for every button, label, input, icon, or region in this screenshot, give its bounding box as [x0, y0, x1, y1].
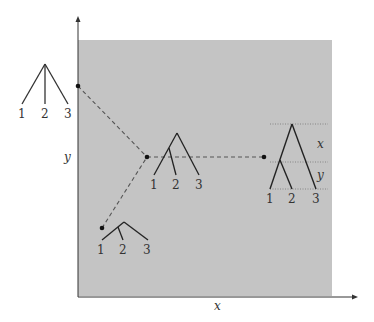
right-tree-branch-x-label: x — [317, 137, 324, 151]
y-axis-label: y — [63, 150, 71, 164]
y-axis-arrow-icon — [76, 16, 81, 22]
bottom-tree-leaf-3: 3 — [143, 243, 151, 257]
star-tree-leaf-2: 2 — [41, 107, 49, 121]
star-tree-leaf-3: 3 — [64, 107, 72, 121]
point-top — [76, 84, 81, 89]
right-tree-leaf-1: 1 — [266, 192, 274, 206]
center-tree-leaf-1: 1 — [150, 178, 158, 192]
star-tree-leaf-1: 1 — [18, 107, 26, 121]
right-tree-leaf-3: 3 — [312, 192, 320, 206]
shaded-region — [78, 40, 332, 296]
point-right — [262, 155, 267, 160]
point-center — [145, 155, 150, 160]
bottom-tree-leaf-1: 1 — [97, 243, 105, 257]
center-tree-leaf-2: 2 — [172, 178, 180, 192]
bottom-tree-leaf-2: 2 — [119, 243, 127, 257]
center-tree-leaf-3: 3 — [195, 178, 203, 192]
right-tree-leaf-2: 2 — [288, 192, 296, 206]
x-axis-arrow-icon — [352, 295, 358, 300]
star-tree — [22, 64, 68, 104]
right-tree-branch-y-label: y — [316, 168, 324, 182]
tree-space-diagram: x y 1 2 3 1 2 3 — [0, 0, 374, 322]
point-bottom — [100, 226, 105, 231]
x-axis-label: x — [214, 299, 221, 313]
